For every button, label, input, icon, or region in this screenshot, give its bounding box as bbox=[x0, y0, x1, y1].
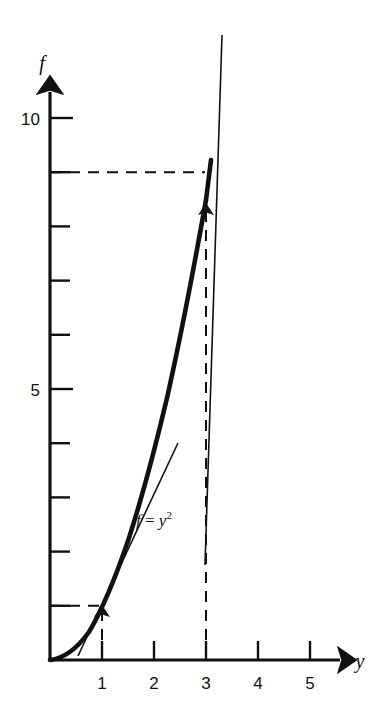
x-tick-label-2: 2 bbox=[149, 674, 158, 693]
tangent-lines-group bbox=[78, 35, 222, 656]
x-tick-label-3: 3 bbox=[201, 674, 210, 693]
x-axis-label-y: y bbox=[354, 650, 365, 673]
curve-group bbox=[50, 160, 211, 660]
tangent-line-at-y-3 bbox=[205, 35, 222, 565]
curve-label-equals: = bbox=[141, 511, 159, 530]
y-tick-label-5: 5 bbox=[31, 381, 40, 400]
x-tick-label-4: 4 bbox=[253, 674, 262, 693]
chart-figure: 10 5 1 2 3 4 5 f y f = y2 bbox=[0, 0, 390, 717]
y-axis-label-f: f bbox=[39, 52, 47, 75]
curve-f-equals-y-squared bbox=[50, 160, 211, 660]
x-tick-label-5: 5 bbox=[305, 674, 314, 693]
curve-label-base: y bbox=[157, 511, 167, 530]
y-tick-label-10: 10 bbox=[21, 110, 40, 129]
x-tick-label-1: 1 bbox=[97, 674, 106, 693]
axes-group bbox=[50, 92, 340, 660]
curve-label-exponent: 2 bbox=[166, 509, 172, 521]
y-axis-ticks bbox=[50, 118, 73, 606]
plot-canvas: 10 5 1 2 3 4 5 f y f = y2 bbox=[0, 0, 390, 717]
curve-equation-label: f = y2 bbox=[136, 509, 172, 530]
guide-lines-group bbox=[50, 172, 206, 659]
axis-name-labels-group: f y bbox=[39, 52, 364, 673]
curve-label-group: f = y2 bbox=[136, 509, 172, 530]
